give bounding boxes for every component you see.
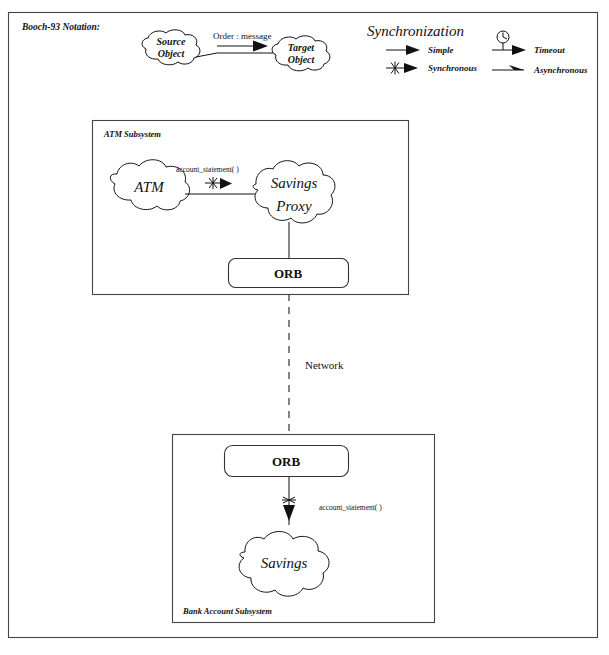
legend-label-asynchronous: Asynchronous (533, 65, 588, 75)
target-object-line2: Object (288, 54, 316, 65)
legend-item-simple: Simple (386, 45, 454, 55)
savings-proxy-line1: Savings (271, 175, 318, 191)
legend-label-timeout: Timeout (534, 45, 565, 55)
synchronous-marker-icon (205, 177, 232, 189)
booch-notation-label: Booch-93 Notation: (21, 22, 100, 32)
legend-item-asynchronous: Asynchronous (492, 65, 588, 75)
timeout-arrow-icon (492, 31, 526, 55)
notation-message-label: Order : message (213, 31, 271, 41)
atm-to-proxy-connector (185, 177, 255, 194)
legend-label-synchronous: Synchronous (428, 63, 478, 73)
atm-orb-node: ORB (229, 259, 349, 288)
simple-arrow-icon (386, 45, 420, 55)
atm-cloud-label: ATM (133, 179, 165, 195)
bank-orb-node: ORB (225, 446, 349, 477)
legend-item-synchronous: Synchronous (386, 62, 478, 75)
source-object-cloud: Source Object (142, 30, 200, 65)
atm-orb-label: ORB (274, 266, 303, 281)
bank-message-label: account_statement( ) (319, 503, 382, 512)
legend-title: Synchronization (367, 23, 464, 39)
source-object-line1: Source (157, 36, 186, 47)
atm-subsystem-title: ATM Subsystem (103, 129, 161, 139)
savings-cloud: Savings (239, 532, 329, 597)
notation-message-connector (196, 41, 276, 58)
legend-item-timeout: Timeout (492, 31, 565, 55)
synchronous-arrow-icon (386, 62, 418, 75)
diagram-canvas: Booch-93 Notation: Source Object Order :… (0, 0, 609, 655)
savings-cloud-label: Savings (261, 555, 308, 571)
legend-label-simple: Simple (428, 45, 454, 55)
bank-subsystem-title: Bank Account Subsystem (182, 606, 272, 616)
savings-proxy-cloud: Savings Proxy (253, 161, 335, 223)
network-label: Network (305, 359, 344, 371)
target-object-cloud: Target Object (272, 36, 330, 71)
source-object-line2: Object (158, 48, 186, 59)
target-object-line1: Target (288, 42, 316, 53)
atm-message-label: account_statement( ) (176, 165, 239, 174)
orb-to-savings-connector (282, 477, 296, 525)
savings-proxy-line2: Proxy (275, 198, 312, 214)
bank-orb-label: ORB (272, 454, 301, 469)
asynchronous-arrow-icon (492, 65, 524, 70)
